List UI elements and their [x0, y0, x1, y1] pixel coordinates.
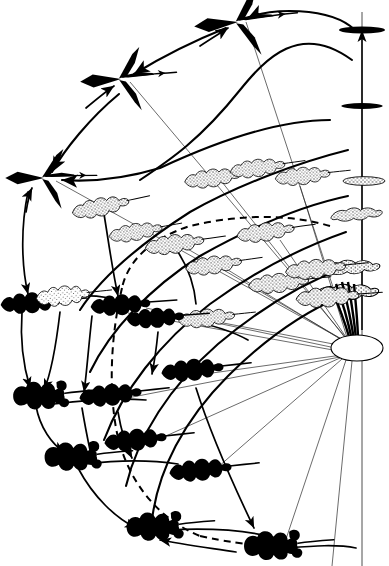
leaf-node-black-arrow[interactable]	[78, 44, 179, 114]
leaf-morphospace-diagram	[0, 0, 389, 566]
leaf-node-black-arrow[interactable]	[5, 149, 97, 209]
connector-arrow	[84, 316, 92, 392]
leaf-node-stipple-lobed[interactable]	[178, 304, 257, 330]
leaf-node-black-round[interactable]	[126, 508, 216, 543]
leaf-node-black-lobed[interactable]	[160, 353, 252, 384]
connector-arrow	[196, 388, 254, 528]
leaf-node-stipple-lobed[interactable]	[70, 188, 151, 222]
transformation-arc	[140, 44, 352, 180]
origin-ray	[210, 359, 342, 474]
axis-node-2	[341, 103, 382, 109]
origin-ray	[205, 355, 342, 374]
axis-node-3	[343, 177, 385, 186]
incoming-arrow	[86, 86, 114, 108]
connector-arrow	[21, 312, 30, 388]
transformation-arc	[104, 214, 118, 296]
leaf-node-black-arrow[interactable]	[191, 0, 302, 61]
transformation-arc	[134, 28, 226, 74]
transformation-arc	[52, 94, 119, 172]
leaf-node-black-round[interactable]	[243, 527, 335, 563]
connector-arrow	[44, 312, 60, 390]
leaf-node-black-lobed[interactable]	[78, 378, 170, 409]
figure-root	[0, 0, 389, 566]
transformation-arc	[173, 245, 196, 304]
leaf-node-stipple-lobed[interactable]	[274, 162, 351, 187]
origin-rosette	[331, 335, 383, 361]
axis-node-4	[330, 205, 383, 223]
transformation-arc	[248, 11, 355, 30]
leaf-node-black-lobed[interactable]	[168, 453, 260, 484]
axis-node-1	[339, 27, 385, 34]
